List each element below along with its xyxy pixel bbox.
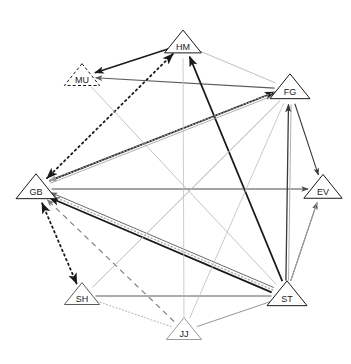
node-ev[interactable]: EV — [304, 174, 342, 198]
node-layer: HMMUFGGBEVSTSHJJ — [16, 30, 342, 339]
node-label-hm: HM — [176, 42, 190, 52]
edge-st-fg — [289, 105, 292, 281]
edge-st-gb — [50, 195, 272, 290]
edge-st-hm — [190, 57, 283, 281]
edge-st-gb — [51, 193, 273, 288]
node-label-sh: SH — [76, 294, 89, 304]
diagram-canvas: HMMUFGGBEVSTSHJJ — [0, 0, 351, 364]
edge-fg-ev — [295, 104, 318, 175]
edge-jj-sh — [95, 300, 171, 326]
network-graph: HMMUFGGBEVSTSHJJ — [0, 0, 351, 364]
edge-ev-st — [291, 203, 317, 281]
edge-st-fg — [286, 104, 289, 280]
node-gb[interactable]: GB — [16, 174, 56, 199]
edge-fg-gb — [49, 92, 274, 181]
edge-hm-fg — [196, 50, 276, 83]
edge-st-jj — [197, 301, 272, 327]
node-st[interactable]: ST — [267, 281, 307, 306]
node-fg[interactable]: FG — [270, 74, 310, 99]
edge-st-gb — [49, 197, 271, 292]
node-hm[interactable]: HM — [165, 30, 202, 53]
node-label-mu: MU — [75, 75, 89, 85]
node-mu[interactable]: MU — [64, 64, 99, 86]
node-label-ev: EV — [317, 187, 329, 197]
node-label-st: ST — [281, 294, 293, 304]
edge-sh-fg — [93, 101, 280, 287]
edge-jj-hm — [183, 58, 184, 317]
node-label-jj: JJ — [180, 329, 189, 339]
node-label-fg: FG — [284, 87, 297, 97]
node-jj[interactable]: JJ — [166, 318, 201, 340]
edge-fg-mu — [96, 78, 275, 88]
edge-sh-gb — [42, 203, 76, 283]
node-label-gb: GB — [29, 187, 42, 197]
